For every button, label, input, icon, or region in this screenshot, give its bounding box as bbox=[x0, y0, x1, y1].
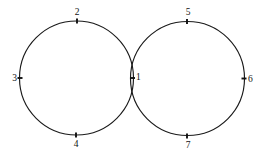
point-7-label: 7 bbox=[186, 140, 191, 150]
point-4-label: 4 bbox=[74, 139, 79, 149]
point-1-label: 1 bbox=[136, 72, 141, 82]
point-6-label: 6 bbox=[248, 74, 253, 84]
point-5-label: 5 bbox=[186, 7, 191, 17]
diagram-canvas: 1234567 bbox=[0, 0, 261, 155]
point-2-label: 2 bbox=[75, 7, 80, 17]
right-circle bbox=[131, 22, 245, 136]
left-circle bbox=[20, 21, 134, 135]
point-3-label: 3 bbox=[12, 73, 17, 83]
tick-marks-group bbox=[18, 19, 247, 139]
two-circles-figure: 1234567 bbox=[0, 0, 261, 155]
